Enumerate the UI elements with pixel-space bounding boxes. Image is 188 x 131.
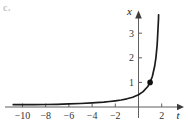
tick-label-t--10: −10	[15, 110, 31, 121]
curves	[13, 15, 158, 105]
t-axis-label: t	[177, 109, 181, 121]
tick-label-x-2: 2	[129, 52, 134, 63]
tick-label-x-3: 3	[129, 28, 134, 39]
tick-label-t--2: −2	[110, 110, 121, 121]
initial-condition-point	[147, 80, 153, 86]
x-axis-label: x	[126, 5, 132, 17]
x-axis-ticks: 123	[129, 28, 142, 88]
t-axis-ticks: −10−8−6−4−22	[15, 104, 165, 121]
x-axis-arrowhead	[135, 11, 142, 19]
exponential-growth-plot: −10−8−6−4−22 123 t x	[0, 0, 188, 131]
tick-label-t--8: −8	[40, 110, 51, 121]
tick-label-t--4: −4	[87, 110, 98, 121]
solution-curve	[13, 15, 158, 105]
tick-label-t-2: 2	[159, 110, 164, 121]
tick-label-t--6: −6	[64, 110, 75, 121]
figure-panel-c: c. −10−8−6−4−22 123 t x	[0, 0, 188, 131]
tick-label-x-1: 1	[129, 77, 134, 88]
